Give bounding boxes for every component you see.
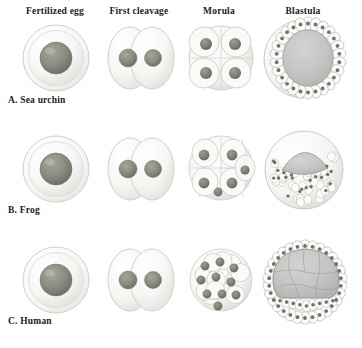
row-label-frog: B. Frog [8, 205, 40, 215]
frog-first-cleavage [103, 135, 179, 203]
sea-urchin-morula [186, 22, 256, 94]
frog-fertilized-egg [18, 133, 94, 205]
human-blastocyst [260, 238, 352, 326]
sea-urchin-first-cleavage [103, 24, 179, 92]
row-label-sea-urchin: A. Sea urchin [8, 95, 66, 105]
column-header-blastula: Blastula [258, 6, 348, 16]
embryonic-development-figure: Fertilized egg First cleavage Morula Bla… [0, 0, 362, 348]
sea-urchin-blastula [262, 18, 348, 100]
human-morula [187, 246, 257, 314]
column-header-morula: Morula [174, 6, 264, 16]
frog-blastula [262, 128, 350, 212]
frog-morula [187, 132, 257, 204]
sea-urchin-fertilized-egg [18, 22, 94, 94]
human-fertilized-egg [18, 244, 94, 316]
human-first-cleavage [103, 246, 179, 314]
row-label-human: C. Human [8, 316, 52, 326]
